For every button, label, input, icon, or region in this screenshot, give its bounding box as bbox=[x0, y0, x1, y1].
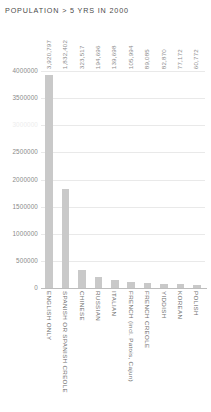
plot-area bbox=[41, 71, 205, 288]
y-axis-tick-label: 3500000 bbox=[0, 95, 38, 101]
bar-value-label: 323,517 bbox=[78, 45, 84, 69]
y-axis: 4000000350000030000002500000200000015000… bbox=[0, 0, 38, 412]
bar-chart: POPULATION > 5 YRS IN 2000 4000000350000… bbox=[0, 0, 211, 412]
bar-value-label: 139,698 bbox=[111, 45, 117, 69]
x-axis-category-label: SPANISH OR SPANISH CREOLE bbox=[62, 291, 68, 393]
y-axis-tick-label: 1500000 bbox=[0, 204, 38, 210]
y-axis-tick-label: 3000000 bbox=[0, 122, 38, 128]
x-axis-category-label: ENGLISH ONLY bbox=[46, 291, 52, 340]
bar-value-labels: 3,920,7971,832,402323,517194,696139,6981… bbox=[41, 0, 211, 71]
bar bbox=[111, 280, 119, 288]
y-axis-tick-label: 4000000 bbox=[0, 68, 38, 74]
bar-value-label: 60,772 bbox=[193, 49, 199, 69]
x-axis-category-label: YIDDISH bbox=[160, 291, 166, 319]
bar bbox=[78, 270, 86, 288]
x-axis-category-labels: ENGLISH ONLYSPANISH OR SPANISH CREOLECHI… bbox=[41, 291, 211, 412]
x-axis-category-label: RUSSIAN bbox=[95, 291, 101, 321]
x-axis-line bbox=[41, 288, 207, 289]
y-axis-tick-label: 2500000 bbox=[0, 149, 38, 155]
x-axis-category-label: KOREAN bbox=[177, 291, 183, 319]
bar bbox=[45, 75, 53, 288]
bar-value-label: 82,870 bbox=[160, 49, 166, 69]
x-axis-category-label: CHINESE bbox=[78, 291, 84, 321]
y-axis-tick-label: 500000 bbox=[0, 258, 38, 264]
x-axis-category-label: POLISH bbox=[193, 291, 199, 316]
bar-value-label: 77,172 bbox=[177, 49, 183, 69]
y-axis-tick-label: 2000000 bbox=[0, 177, 38, 183]
bar-value-label: 89,085 bbox=[144, 49, 150, 69]
bar-value-label: 1,832,402 bbox=[62, 40, 68, 69]
x-axis-category-label: FRENCH (incl. Patois, Cajun) bbox=[128, 291, 134, 382]
x-axis-category-label: ITALIAN bbox=[111, 291, 117, 316]
bar-value-label: 105,994 bbox=[128, 45, 134, 69]
x-axis-category-label: FRENCH CREOLE bbox=[144, 291, 150, 349]
y-axis-tick-label: 1000000 bbox=[0, 231, 38, 237]
bar bbox=[62, 189, 70, 288]
bar bbox=[95, 277, 103, 288]
bar-value-label: 194,696 bbox=[95, 45, 101, 69]
bar-value-label: 3,920,797 bbox=[46, 40, 52, 69]
y-axis-tick-label: 0 bbox=[0, 285, 38, 291]
bars-group bbox=[41, 71, 205, 288]
